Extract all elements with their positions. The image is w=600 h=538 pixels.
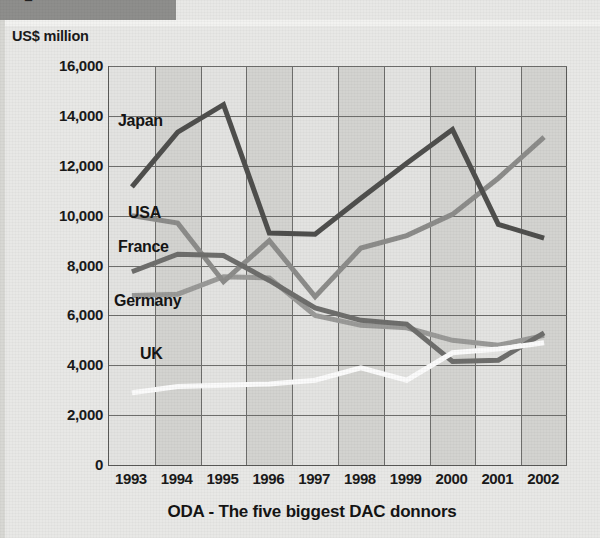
y-tick-label: 4,000: [67, 357, 103, 373]
series-line-uk: [132, 343, 544, 393]
series-line-japan: [132, 105, 544, 238]
chart-page: ■ US$ million 02,0004,0006,0008,00010,00…: [0, 0, 600, 538]
header-glyph: ■: [24, 0, 33, 2]
header-underband: [0, 20, 600, 26]
x-tick-label: 1995: [200, 470, 246, 487]
x-axis-tick-labels: 1993199419951996199719981999200020012002: [108, 470, 566, 494]
y-tick-label: 6,000: [67, 307, 103, 323]
series-lines: [109, 66, 567, 465]
x-tick-label: 1997: [291, 470, 337, 487]
x-tick-label: 1993: [108, 470, 154, 487]
x-tick-label: 1999: [383, 470, 429, 487]
x-tick-label: 2001: [474, 470, 520, 487]
y-tick-label: 8,000: [67, 258, 103, 274]
header-bar: ■: [0, 0, 176, 20]
y-axis-unit-label: US$ million: [12, 28, 89, 44]
y-axis-tick-labels: 02,0004,0006,0008,00010,00012,00014,0001…: [0, 66, 103, 465]
x-tick-label: 1998: [337, 470, 383, 487]
chart-caption: ODA - The five biggest DAC donnors: [0, 502, 600, 522]
x-tick-label: 2000: [429, 470, 475, 487]
plot-area: [108, 66, 567, 466]
chart-caption-text: ODA - The five biggest DAC donnors: [167, 502, 456, 522]
x-tick-label: 1996: [245, 470, 291, 487]
x-tick-label: 1994: [154, 470, 200, 487]
y-tick-label: 2,000: [67, 407, 103, 423]
x-tick-label: 2002: [520, 470, 566, 487]
y-tick-label: 12,000: [59, 158, 103, 174]
y-tick-label: 14,000: [59, 108, 103, 124]
y-tick-label: 16,000: [59, 58, 103, 74]
y-tick-label: 0: [95, 457, 103, 473]
series-line-germany: [132, 277, 544, 346]
y-tick-label: 10,000: [59, 208, 103, 224]
